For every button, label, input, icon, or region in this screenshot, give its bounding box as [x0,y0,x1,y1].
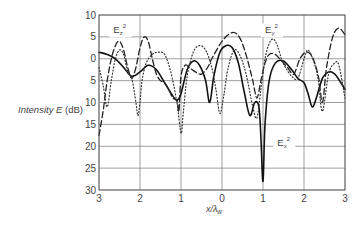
y-tick-label: 30 [85,185,97,196]
y-tick-label: 10 [85,10,97,21]
y-axis-ticks: 105051015202530 [85,10,97,196]
y-tick-label: 20 [85,141,97,152]
x-tick-label: 2 [137,193,143,204]
y-axis-label-main: Intensity E [18,104,63,115]
x-axis-label-sub: w [217,208,223,215]
x-axis-ticks: 3210123 [96,193,348,204]
y-axis-label: Intensity E (dB) [18,104,83,115]
y-tick-label: 5 [90,75,96,86]
x-tick-label: 3 [342,193,348,204]
y-tick-label: 15 [85,119,97,130]
y-tick-label: 25 [85,163,97,174]
y-tick-label: 10 [85,97,97,108]
y-tick-label: 0 [90,53,96,64]
series-annotations: Ez2Ey2Ex2 [109,23,295,150]
y-tick-label: 5 [90,31,96,42]
x-tick-label: 0 [219,193,225,204]
x-axis-label: x/λw [205,204,223,215]
x-tick-label: 2 [301,193,307,204]
x-tick-label: 1 [260,193,266,204]
x-axis-label-base: x/λ [205,204,217,214]
y-axis-label-unit: (dB) [62,104,83,115]
x-tick-label: 1 [178,193,184,204]
intensity-chart: Ez2Ey2Ex2 3210123 105051015202530 Intens… [0,0,362,228]
x-tick-label: 3 [96,193,102,204]
